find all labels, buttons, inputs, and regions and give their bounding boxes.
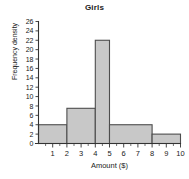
histogram-bar [152,134,180,143]
x-tick-label: 5 [107,149,111,158]
y-tick-label: 14 [26,74,34,81]
x-tick-label: 9 [164,149,168,158]
y-tick-label: 6 [30,112,34,119]
x-tick-label: 3 [79,149,83,158]
histogram-chart: Girls Frequency density 0246810121416182… [0,0,189,179]
y-tick-label: 12 [26,84,34,91]
y-axis-ticks: 02468101214161820222426 [26,18,39,147]
y-tick-label: 10 [26,93,34,100]
y-tick-label: 22 [26,37,34,44]
histogram-bar [67,108,95,143]
x-tick-label: 6 [122,149,126,158]
x-tick-label: 1 [51,149,55,158]
x-axis-ticks: 12345678910 [46,144,185,159]
plot-area: 02468101214161820222426 12345678910 [0,0,189,179]
x-tick-label: 10 [176,149,184,158]
y-tick-label: 8 [30,103,34,110]
x-tick-label: 4 [93,149,97,158]
histogram-bar [110,125,153,144]
y-tick-label: 18 [26,56,34,63]
y-tick-label: 26 [26,18,34,25]
x-tick-label: 2 [65,149,69,158]
y-tick-label: 4 [30,121,34,128]
x-tick-label: 8 [150,149,154,158]
y-tick-label: 2 [30,131,34,138]
y-tick-label: 16 [26,65,34,72]
y-tick-label: 24 [26,27,34,34]
y-tick-label: 0 [30,140,34,147]
x-tick-label: 7 [136,149,140,158]
histogram-bar [95,40,109,143]
x-axis-label: Amount ($) [38,161,181,170]
histogram-bar [39,125,67,144]
bars-group [39,40,181,143]
y-tick-label: 20 [26,46,34,53]
